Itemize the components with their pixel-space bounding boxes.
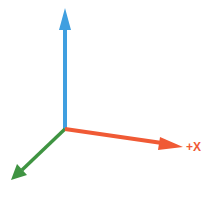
z-axis-shaft [22, 129, 65, 170]
x-axis [65, 129, 183, 150]
y-axis-arrowhead-icon [59, 8, 71, 30]
axis-gizmo [0, 0, 219, 208]
x-axis-arrowhead-icon [158, 137, 183, 150]
z-axis [11, 129, 65, 180]
x-axis-label: +X [186, 141, 201, 153]
y-axis [59, 8, 71, 129]
x-axis-shaft [65, 129, 162, 143]
